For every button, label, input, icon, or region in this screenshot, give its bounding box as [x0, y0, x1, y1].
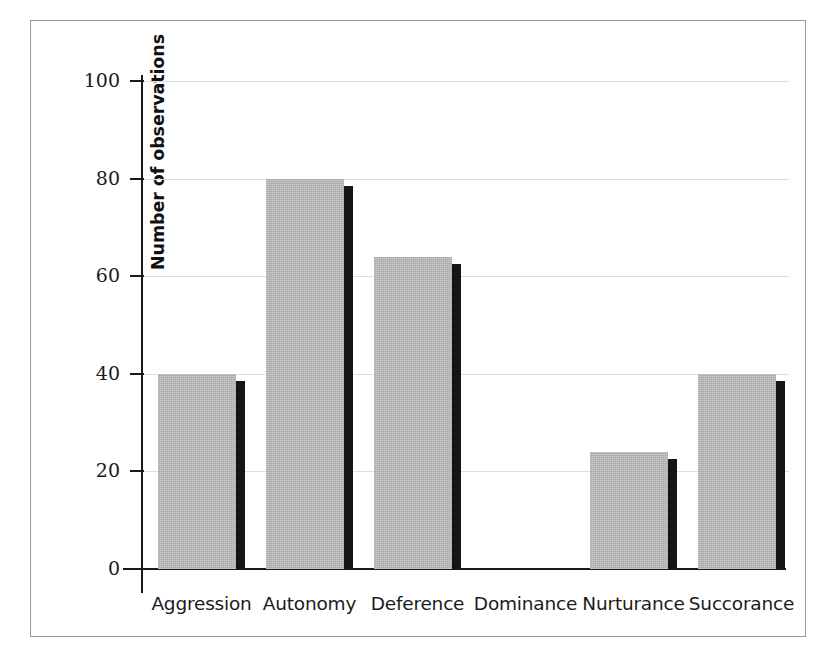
bar-fill	[374, 257, 452, 569]
x-tick-label: Succorance	[667, 593, 817, 614]
bar[interactable]	[590, 452, 677, 569]
bar-fill	[698, 374, 776, 569]
figure-frame: Number of observations 020406080100 Aggr…	[30, 20, 806, 637]
y-tick-label: 40	[66, 364, 120, 383]
y-tick-label: 20	[66, 461, 120, 480]
plot-area	[142, 81, 787, 569]
bar[interactable]	[266, 179, 353, 569]
bar-shadow	[236, 381, 245, 569]
y-tick-label: 60	[66, 266, 120, 285]
y-tick-label: 0	[66, 559, 120, 578]
bar-shadow	[452, 264, 461, 569]
bar-fill	[158, 374, 236, 569]
bar-fill	[590, 452, 668, 569]
y-tick-label: 80	[66, 169, 120, 188]
bar-shadow	[344, 186, 353, 569]
bar[interactable]	[698, 374, 785, 569]
bar[interactable]	[158, 374, 245, 569]
bar-shadow	[668, 459, 677, 569]
y-tick-label: 100	[66, 71, 120, 90]
bar-fill	[266, 179, 344, 569]
bar[interactable]	[374, 257, 461, 569]
bar-shadow	[776, 381, 785, 569]
